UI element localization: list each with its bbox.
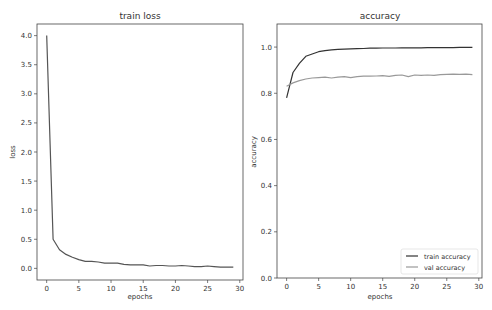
figure-canvas: train loss 0510152025300.00.51.01.52.02.…	[0, 0, 492, 310]
y-tick-label: 4.0	[21, 32, 32, 40]
x-tick-label: 10	[346, 283, 355, 291]
x-tick-label: 10	[107, 285, 116, 293]
x-tick-label: 25	[442, 283, 451, 291]
accuracy-chart: accuracy 0510152025300.00.20.40.60.81.0 …	[250, 11, 483, 301]
legend-label-train: train accuracy	[424, 253, 471, 261]
y-tick-label: 0.8	[261, 90, 272, 98]
x-tick-label: 5	[77, 285, 81, 293]
accuracy-legend: train accuracy val accuracy	[401, 249, 478, 274]
x-tick-label: 15	[139, 285, 148, 293]
figure: train loss 0510152025300.00.51.01.52.02.…	[0, 0, 492, 310]
y-tick-label: 2.5	[21, 119, 32, 127]
series-line-train-loss	[47, 36, 234, 268]
y-tick-label: 0.6	[261, 136, 273, 144]
loss-x-axis-label: epochs	[128, 293, 153, 301]
accuracy-x-axis-label: epochs	[368, 293, 393, 301]
x-tick-label: 0	[284, 283, 288, 291]
y-tick-label: 3.5	[21, 61, 32, 69]
y-tick-label: 1.5	[21, 178, 32, 186]
loss-plot-area: 0510152025300.00.51.01.52.02.53.03.54.0	[21, 24, 244, 293]
x-tick-label: 30	[235, 285, 244, 293]
x-tick-label: 20	[171, 285, 180, 293]
x-tick-label: 15	[378, 283, 387, 291]
x-tick-label: 25	[203, 285, 212, 293]
y-tick-label: 0.0	[261, 275, 272, 283]
legend-label-val: val accuracy	[424, 264, 465, 272]
x-tick-label: 0	[44, 285, 48, 293]
x-tick-label: 30	[474, 283, 483, 291]
y-tick-label: 0.4	[261, 182, 273, 190]
y-tick-label: 3.0	[21, 90, 32, 98]
loss-chart-title: train loss	[119, 11, 161, 21]
accuracy-chart-title: accuracy	[360, 11, 401, 21]
y-tick-label: 0.5	[21, 236, 32, 244]
series-line-train-accuracy	[287, 47, 473, 98]
accuracy-y-axis-label: accuracy	[250, 136, 258, 168]
y-tick-label: 0.0	[21, 265, 32, 273]
axes-frame	[37, 24, 243, 280]
loss-y-axis-label: loss	[9, 145, 17, 159]
series-line-val-accuracy	[287, 74, 473, 86]
loss-chart: train loss 0510152025300.00.51.01.52.02.…	[9, 11, 244, 301]
y-tick-label: 1.0	[21, 207, 32, 215]
x-tick-label: 20	[410, 283, 419, 291]
axes-frame	[277, 24, 482, 278]
y-tick-label: 2.0	[21, 149, 32, 157]
y-tick-label: 0.2	[261, 228, 272, 236]
x-tick-label: 5	[316, 283, 320, 291]
y-tick-label: 1.0	[261, 44, 272, 52]
